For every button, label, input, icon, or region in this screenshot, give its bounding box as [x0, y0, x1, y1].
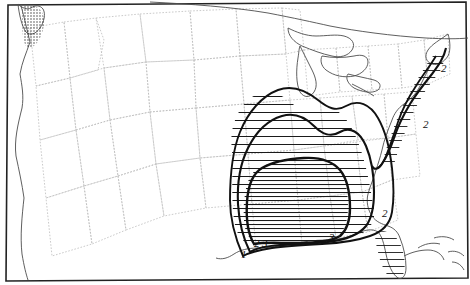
map-canvas: 1 2 3 3 2 2 2 [0, 0, 470, 285]
contour-label-2-georgia: 2 [382, 207, 388, 219]
contour-label-2-newengland: 2 [441, 62, 447, 74]
contour-label-3-alabama: 3 [328, 231, 335, 243]
contour-label-2-gulf: 2 [254, 237, 260, 249]
contour-map-figure: 1 2 3 3 2 2 2 [0, 0, 470, 285]
contour-label-3-gulf: 3 [261, 237, 268, 249]
contour-label-1: 1 [241, 248, 247, 260]
contour-label-2-virginia: 2 [423, 118, 429, 130]
